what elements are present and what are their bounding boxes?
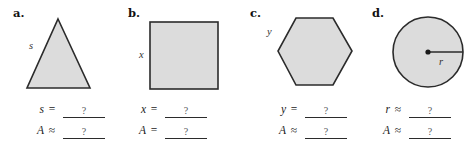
- triangle-shape: [0, 0, 120, 95]
- answers-d: r ≈ ? A ≈ ?: [362, 97, 469, 139]
- answer-relation: ≈: [286, 125, 302, 140]
- triangle-side-label: s: [29, 40, 33, 51]
- answer-placeholder: ?: [82, 105, 86, 116]
- triangle-figure: s: [0, 0, 120, 95]
- answer-variable: A: [272, 125, 286, 140]
- answer-variable: A: [376, 125, 390, 140]
- answer-blank[interactable]: ?: [305, 101, 347, 118]
- answer-placeholder: ?: [428, 105, 432, 116]
- answer-blank[interactable]: ?: [409, 122, 451, 139]
- answer-placeholder: ?: [184, 126, 188, 137]
- answer-row: x = ?: [132, 97, 250, 118]
- answer-relation: ≈: [390, 125, 406, 140]
- answer-relation: =: [286, 104, 302, 119]
- answer-row: A ≈ ?: [376, 118, 469, 139]
- answer-blank[interactable]: ?: [63, 101, 105, 118]
- hexagon-shape: [240, 0, 360, 95]
- answer-relation: =: [146, 125, 162, 140]
- answer-placeholder: ?: [324, 126, 328, 137]
- panel-c: c. y y = ? A ≈ ?: [240, 0, 360, 145]
- answer-blank[interactable]: ?: [409, 101, 451, 118]
- answer-variable: y: [272, 104, 286, 119]
- answers-b: x = ? A = ?: [118, 97, 250, 139]
- answer-blank[interactable]: ?: [165, 101, 207, 118]
- panel-b: b. x x = ? A = ?: [118, 0, 236, 145]
- answer-placeholder: ?: [82, 126, 86, 137]
- hexagon-figure: y: [240, 0, 360, 95]
- circle-figure: r: [362, 0, 469, 95]
- answer-blank[interactable]: ?: [63, 122, 105, 139]
- answer-row: A = ?: [132, 118, 250, 139]
- square-figure: x: [118, 0, 236, 95]
- answer-placeholder: ?: [428, 126, 432, 137]
- center-dot: [425, 49, 430, 54]
- answer-blank[interactable]: ?: [165, 122, 207, 139]
- square-shape: [118, 0, 236, 95]
- square-side-label: x: [139, 49, 144, 60]
- answer-variable: r: [376, 104, 390, 119]
- answer-blank[interactable]: ?: [305, 122, 347, 139]
- circle-radius-label: r: [439, 56, 443, 67]
- panel-a: a. s s = ? A ≈ ?: [0, 0, 120, 145]
- answer-relation: =: [146, 104, 162, 119]
- answer-relation: =: [44, 104, 60, 119]
- answer-placeholder: ?: [324, 105, 328, 116]
- circle-shape: [362, 0, 469, 95]
- hexagon-side-label: y: [267, 26, 272, 37]
- answer-placeholder: ?: [184, 105, 188, 116]
- answer-row: r ≈ ?: [376, 97, 469, 118]
- answer-variable: x: [132, 104, 146, 119]
- answer-variable: A: [30, 125, 44, 140]
- answer-variable: s: [30, 104, 44, 119]
- answer-relation: ≈: [390, 104, 406, 119]
- panel-d: d. r r ≈ ? A ≈ ?: [362, 0, 469, 145]
- answer-relation: ≈: [44, 125, 60, 140]
- answer-variable: A: [132, 125, 146, 140]
